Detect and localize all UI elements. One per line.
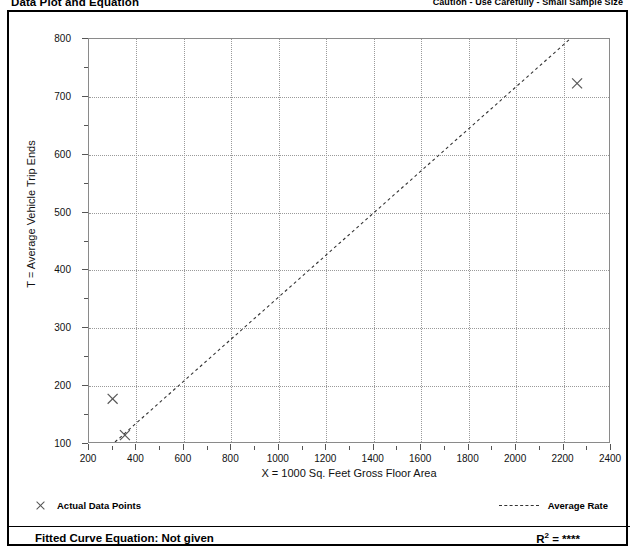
x-axis-tick-labels: 2004006008001000120014001600180020002200… — [88, 443, 610, 463]
y-tick-label: 500 — [54, 206, 71, 217]
plot-area — [88, 38, 610, 443]
x-tick-label: 1600 — [409, 453, 431, 464]
plot-canvas — [89, 39, 609, 442]
r-squared-number: **** — [562, 533, 580, 545]
x-axis-title: X = 1000 Sq. Feet Gross Floor Area — [88, 467, 610, 479]
y-tick-label: 600 — [54, 148, 71, 159]
y-tick-label: 300 — [54, 322, 71, 333]
y-tick-label: 400 — [54, 264, 71, 275]
page-title: Data Plot and Equation — [11, 0, 139, 8]
y-axis-tick-labels: 100200300400500600700800 — [9, 38, 81, 443]
legend-item-actual-data-points: Actual Data Points — [35, 500, 141, 511]
r-squared-equals: = — [549, 533, 562, 545]
caution-note: Caution - Use Carefully - Small Sample S… — [433, 0, 623, 7]
x-tick-label: 1400 — [362, 453, 384, 464]
legend-item-average-rate: Average Rate — [499, 500, 608, 511]
legend-label-actual-data-points: Actual Data Points — [57, 500, 141, 511]
r-squared-value: R2 = **** — [536, 531, 580, 545]
chart-figure: T = Average Vehicle Trip Ends 1002003004… — [9, 12, 630, 494]
x-tick-major — [610, 444, 611, 450]
x-tick-label: 1000 — [267, 453, 289, 464]
fitted-curve-equation: Fitted Curve Equation: Not given — [35, 532, 214, 544]
x-tick-label: 400 — [127, 453, 144, 464]
legend-label-average-rate: Average Rate — [548, 500, 608, 511]
y-tick-label: 700 — [54, 90, 71, 101]
footer: Fitted Curve Equation: Not given R2 = **… — [9, 526, 630, 546]
dashed-line-icon — [499, 505, 539, 506]
data-point-marker — [572, 78, 582, 88]
legend: Actual Data Points Average Rate — [9, 494, 630, 526]
x-tick-label: 600 — [175, 453, 192, 464]
data-point-marker — [108, 394, 118, 404]
x-tick-label: 2200 — [551, 453, 573, 464]
x-tick-label: 800 — [222, 453, 239, 464]
trend-line — [115, 39, 570, 442]
x-marker-icon — [35, 500, 46, 511]
data-point-marker — [120, 430, 130, 440]
x-tick-label: 200 — [80, 453, 97, 464]
y-tick-label: 200 — [54, 380, 71, 391]
x-tick-label: 1800 — [457, 453, 479, 464]
x-tick-label: 1200 — [314, 453, 336, 464]
average-rate-line — [115, 39, 570, 442]
x-tick-label: 2400 — [599, 453, 621, 464]
y-tick-label: 800 — [54, 33, 71, 44]
y-tick-label: 100 — [54, 438, 71, 449]
x-tick-label: 2000 — [504, 453, 526, 464]
chart-card: T = Average Vehicle Trip Ends 1002003004… — [7, 10, 628, 546]
r-squared-symbol: R — [536, 533, 544, 545]
y-axis-ticks — [81, 38, 88, 443]
